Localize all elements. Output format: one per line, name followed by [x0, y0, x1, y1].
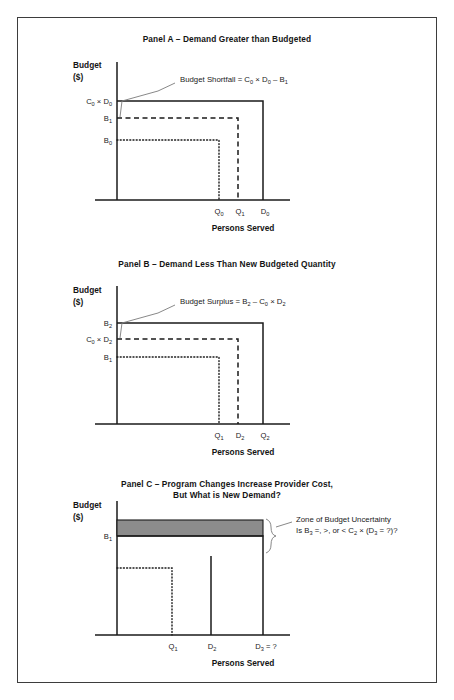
panel-b-xtick-d2: D2: [236, 431, 245, 441]
panel-a-x-axis-title: Persons Served: [212, 223, 275, 233]
panel-b-x-axis-title: Persons Served: [212, 447, 275, 457]
panel-b-annotation-leader: [120, 305, 175, 338]
panel-c-annotation-line1: Zone of Budget Uncertainty: [296, 515, 391, 524]
panel-c-annotation-line2: Is B3 =, >, or < C2 × (D3 = ?)?: [296, 526, 398, 536]
panel-a-ytick-c0d0: C0 × D0: [86, 97, 112, 107]
panel-c-plot: Budget ($) Zone of Budget Uncertainty Is…: [0, 474, 454, 684]
panel-c-y-axis-title-line1: Budget: [73, 500, 102, 510]
panel-a-dashed-step-b1: [117, 118, 238, 200]
panel-a-plot: Budget ($) Budget Shortfall = C0 × D0 – …: [0, 24, 454, 246]
panel-b-solid-step-b2: [117, 323, 263, 424]
panel-a-xtick-q1: Q1: [235, 207, 244, 217]
panel-b-ytick-b2: B2: [104, 319, 112, 329]
panel-b-xtick-q2: Q2: [260, 431, 269, 441]
panel-a-annotation-leader: [120, 83, 175, 117]
panel-a-xtick-d0: D0: [261, 207, 270, 217]
panel-a-y-axis-title-line2: ($): [73, 72, 83, 82]
panel-b-annotation: Budget Surplus = B2 – C0 × D2: [180, 297, 286, 307]
panel-b-plot: Budget ($) Budget Surplus = B2 – C0 × D2…: [0, 250, 454, 472]
panel-b-ytick-c0d2: C0 × D2: [86, 335, 112, 345]
panel-b-y-axis-title-line2: ($): [73, 297, 83, 307]
panel-c-xtick-d3: D3 = ?: [255, 642, 277, 652]
panel-b-dashed-step-c0d2: [117, 339, 238, 424]
panel-c-dotted-step-q1: [117, 568, 172, 635]
panel-b-ytick-b1: B1: [104, 353, 112, 363]
panel-a-solid-step-c0d0: [117, 101, 263, 200]
panel-b: Panel B – Demand Less Than New Budgeted …: [0, 250, 454, 472]
panel-c-ytick-b1: B1: [104, 532, 112, 542]
panel-c-solid-step-b1: [117, 536, 263, 635]
panel-c-x-axis-title: Persons Served: [212, 658, 275, 668]
panel-a-ytick-b1: B1: [104, 114, 112, 124]
panel-a-y-axis-title-line1: Budget: [73, 60, 102, 70]
panel-a-ytick-b0: B0: [104, 136, 112, 146]
panel-a: Panel A – Demand Greater than Budgeted B…: [0, 24, 454, 246]
panel-a-annotation: Budget Shortfall = C0 × D0 – B1: [180, 75, 288, 85]
panel-c-xtick-d2: D2: [208, 642, 217, 652]
figure-root: Panel A – Demand Greater than Budgeted B…: [0, 0, 454, 700]
panel-c-y-axis-title-line2: ($): [73, 512, 83, 522]
panel-c-uncertainty-band: [117, 520, 263, 536]
panel-b-dotted-step-b1: [117, 357, 219, 424]
panel-c-annotation-leader: [276, 522, 292, 527]
panel-b-y-axis-title-line1: Budget: [73, 285, 102, 295]
panel-c-annotation-brace: [266, 519, 276, 553]
panel-b-xtick-q1: Q1: [214, 431, 223, 441]
panel-c: Panel C – Program Changes Increase Provi…: [0, 474, 454, 684]
panel-c-xtick-q1: Q1: [168, 642, 177, 652]
panel-a-xtick-q0: Q0: [214, 207, 223, 217]
panel-a-dotted-step-b0: [117, 140, 219, 200]
